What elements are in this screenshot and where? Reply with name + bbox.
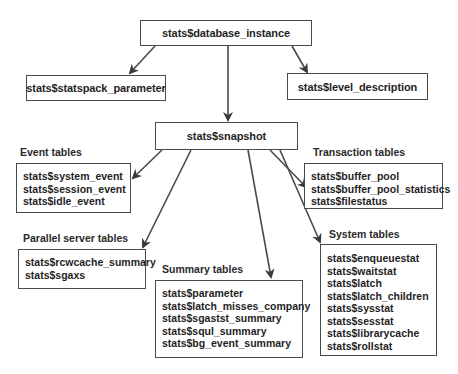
node-statspack-parameter: stats$statspack_parameter [26,75,166,101]
edge-dbinstance-level [292,46,307,72]
group-box-transaction: stats$buffer_pool stats$buffer_pool_stat… [304,163,443,209]
edge-snapshot-parallel [143,150,191,247]
table-item: stats$system_event [23,170,130,183]
table-item: stats$idle_event [23,195,130,208]
table-item: stats$squl_summary [162,325,302,338]
table-item: stats$buffer_pool_statistics [311,183,442,196]
group-label-parallel: Parallel server tables [23,232,128,244]
table-item: stats$bg_event_summary [162,337,302,350]
group-box-parallel: stats$rcwcache_summary stats$sgaxs [18,249,146,289]
table-item: stats$enqueuestat [327,252,436,265]
edge-dbinstance-statspack [130,46,155,73]
table-item: stats$librarycache [327,327,436,340]
group-box-system: stats$enqueuestat stats$waitstat stats$l… [320,244,437,356]
table-item: stats$session_event [23,183,130,196]
table-item: stats$filestatus [311,195,442,208]
edge-snapshot-summary [248,150,271,277]
node-snapshot: stats$snapshot [155,122,298,150]
table-item: stats$sgaxs [25,269,145,282]
table-item: stats$sysstat [327,302,436,315]
table-item: stats$buffer_pool [311,170,442,183]
table-item: stats$rcwcache_summary [25,256,145,269]
table-item: stats$latch [327,277,436,290]
group-label-event: Event tables [20,146,82,158]
node-database-instance: stats$database_instance [140,20,312,46]
edge-snapshot-event [133,150,162,178]
node-level-description: stats$level_description [287,73,428,100]
table-item: stats$parameter [162,287,302,300]
table-item: stats$sesstat [327,315,436,328]
group-label-summary: Summary tables [162,263,243,275]
table-item: stats$rollstat [327,340,436,353]
table-item: stats$latch_children [327,290,436,303]
group-box-event: stats$system_event stats$session_event s… [16,163,131,213]
group-box-summary: stats$parameter stats$latch_misses_compa… [155,280,303,358]
table-item: stats$waitstat [327,265,436,278]
group-label-transaction: Transaction tables [313,146,405,158]
group-label-system: System tables [329,228,400,240]
table-item: stats$sgastst_summary [162,312,302,325]
table-item: stats$latch_misses_company [162,300,302,313]
